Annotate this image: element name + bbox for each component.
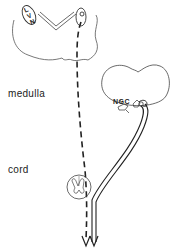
medulla-outline — [102, 65, 170, 106]
medulla-label: medulla — [8, 88, 45, 99]
cord-label: cord — [8, 164, 29, 175]
double-tract-arrowhead — [90, 236, 98, 246]
cord-gray-matter — [72, 179, 84, 193]
right-nucleus-cell — [80, 12, 84, 16]
brainstem-outline — [13, 15, 98, 61]
diagram-canvas — [0, 0, 177, 251]
fourth-ventricle — [38, 12, 76, 30]
ngc-label: NGC — [113, 98, 130, 105]
reticulospinal-tract-outer-left — [92, 106, 144, 242]
dashed-tract-arrowhead — [82, 236, 90, 246]
vestibulospinal-tract-dashed — [77, 22, 87, 240]
